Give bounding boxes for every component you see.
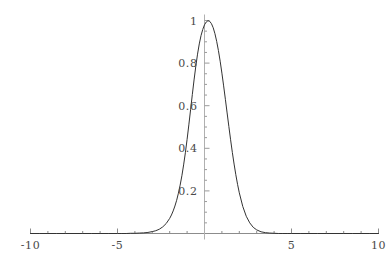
y-tick-label: 1 [0,15,198,26]
y-tick-label: 0.6 [0,100,198,111]
y-tick-label: 0.4 [0,143,198,154]
plot-canvas: -10-55100.20.40.60.81 [0,0,392,261]
x-tick-label: 10 [371,240,386,251]
plot-svg [0,0,392,261]
y-tick-label: 0.2 [0,185,198,196]
x-tick-label: -5 [112,240,124,251]
x-tick-label: -10 [21,240,41,251]
axis-ticks-group [31,21,379,234]
y-tick-label: 0.8 [0,58,198,69]
x-tick-label: 5 [288,240,296,251]
